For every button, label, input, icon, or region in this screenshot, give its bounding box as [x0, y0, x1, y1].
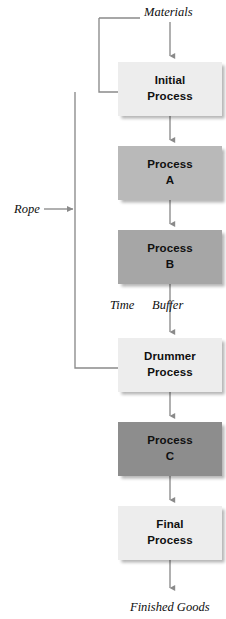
- node-label-line2: Process: [147, 365, 192, 381]
- node-process-b[interactable]: Process B: [118, 230, 222, 284]
- flowchart-diagram: Initial Process Process A Process B Drum…: [0, 0, 226, 619]
- node-drummer-process[interactable]: Drummer Process: [118, 338, 222, 392]
- node-label-line2: Process: [147, 89, 192, 105]
- node-label-line1: Process: [147, 433, 192, 449]
- label-rope: Rope: [14, 202, 40, 217]
- rope-path-lower: [75, 92, 118, 368]
- label-finished-goods: Finished Goods: [130, 600, 210, 615]
- node-initial-process[interactable]: Initial Process: [118, 62, 222, 116]
- node-process-c[interactable]: Process C: [118, 422, 222, 476]
- node-label-line2: C: [166, 449, 174, 465]
- label-materials: Materials: [144, 5, 193, 20]
- node-label-line2: Process: [147, 533, 192, 549]
- rope-path-upper: [99, 18, 118, 92]
- node-label-line1: Process: [147, 241, 192, 257]
- label-buffer: Buffer: [152, 298, 183, 313]
- node-final-process[interactable]: Final Process: [118, 506, 222, 560]
- label-time: Time: [110, 298, 134, 313]
- node-label-line1: Final: [156, 517, 183, 533]
- node-label-line1: Drummer: [144, 349, 196, 365]
- node-process-a[interactable]: Process A: [118, 146, 222, 200]
- node-label-line2: B: [166, 257, 174, 273]
- node-label-line1: Process: [147, 157, 192, 173]
- node-label-line1: Initial: [155, 73, 186, 89]
- node-label-line2: A: [166, 173, 174, 189]
